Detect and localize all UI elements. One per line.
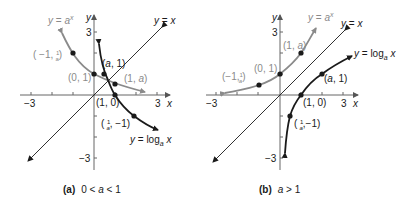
exp-label-a: y = ax [47,14,74,26]
caption-a: (a)0 < a < 1 [63,184,121,195]
identity-label-b: y = x [340,18,363,29]
y-axis-label-b: y [271,12,278,23]
log-exp-graphs: −3 3 x 3 −3 y y = x y = ax y = loga x ( … [0,0,413,208]
exp-label-b: y = ax [307,11,334,23]
point-label-inva-neg1-b: ( 1a,−1) [294,118,320,131]
point-label-a-1-b: (a, 1) [324,73,347,84]
panel-a: −3 3 x 3 −3 y y = x y = ax y = loga x ( … [20,12,176,195]
identity-label-a: y = x [153,15,176,26]
y-tick-max-b: 3 [272,27,278,38]
point-label-1-a-a: (1, a) [124,73,147,84]
point-label-inva-neg1-a: ( 1a, −1) [101,118,130,131]
x-tick-max-b: 3 [341,98,347,109]
point-label-1-0-b: (1, 0) [303,97,326,108]
point-label-1-0-a: (1, 0) [96,97,119,108]
point-label-0-1-b: (0, 1) [254,63,277,74]
log-label-b: y = loga x [353,48,396,61]
caption-b: (b)a > 1 [259,184,301,195]
identity-line-b [213,30,345,162]
point-label-0-1-a: (0, 1) [68,72,91,83]
x-axis-label-a: x [166,98,173,109]
x-tick-max-a: 3 [155,98,161,109]
panel-b: −3 3 x 3 −3 y y = x y = ax y = loga x (−… [206,11,396,195]
point-label-a-1-a: (a, 1) [102,58,125,69]
y-axis-label-a: y [85,12,92,23]
log-label-a: y = loga x [129,134,172,147]
x-axis-label-b: x [352,98,359,109]
x-tick-min-b: −3 [206,98,218,109]
x-tick-min-a: −3 [24,98,36,109]
point-label-1-a-b: (1, a) [283,40,306,51]
point-label-neg1-a: ( −1, 1a) [33,49,62,62]
y-tick-min-a: −3 [79,153,91,164]
y-tick-min-b: −3 [265,153,277,164]
point-label-neg1-b: (−1,1a) [222,71,246,84]
y-tick-max-a: 3 [86,27,92,38]
